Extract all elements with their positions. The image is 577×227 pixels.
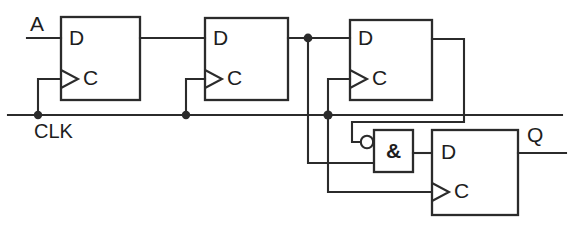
ff1-c-pin-label: C — [83, 66, 98, 89]
flipflop-2: D C — [140, 18, 288, 115]
wire-clk-to-ff1-c — [38, 79, 61, 115]
ff4-c-pin-label: C — [454, 179, 469, 202]
and-gate: & — [361, 130, 432, 172]
flipflop-4: D C Q — [432, 123, 566, 215]
flipflop-1: D C A — [27, 12, 140, 115]
logic-diagram-canvas: CLK D C A D C D — [0, 0, 577, 227]
ff4-d-pin-label: D — [441, 140, 456, 163]
wire-clk-to-ff3-c — [328, 79, 350, 115]
ff2-d-pin-label: D — [213, 26, 228, 49]
ff1-d-pin-label: D — [69, 26, 84, 49]
and-gate-symbol-label: & — [386, 139, 401, 162]
input-a-label: A — [30, 12, 44, 35]
circuit-schematic: CLK D C A D C D — [0, 0, 577, 227]
ff2-c-pin-label: C — [227, 66, 242, 89]
clk-signal-label: CLK — [34, 120, 74, 142]
ff3-c-pin-label: C — [372, 66, 387, 89]
inverting-bubble-icon — [361, 136, 373, 148]
wire-clk-to-ff2-c — [186, 79, 205, 115]
output-q-label: Q — [527, 123, 543, 146]
ff3-d-pin-label: D — [358, 26, 373, 49]
